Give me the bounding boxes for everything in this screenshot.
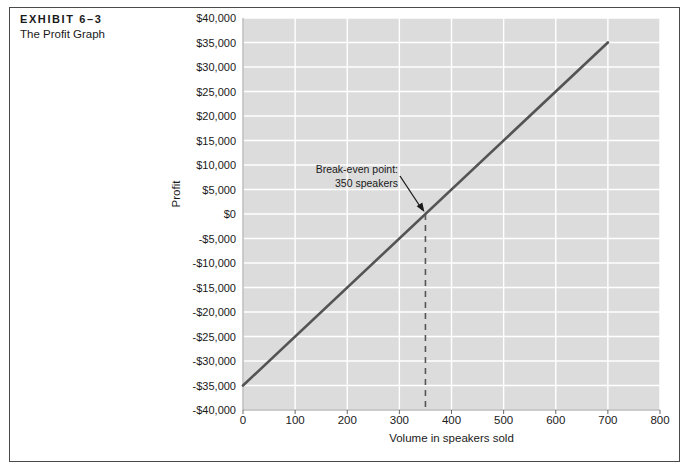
- x-tick-label: 0: [240, 414, 246, 426]
- x-tick-label: 100: [286, 414, 305, 426]
- y-tick-label: -$35,000: [150, 380, 236, 392]
- y-tick-label: $30,000: [150, 61, 236, 73]
- break-even-annotation: Break-even point: 350 speakers: [288, 163, 398, 191]
- profit-graph-chart: $40,000$35,000$30,000$25,000$20,000$15,0…: [0, 0, 691, 473]
- x-tick-label: 400: [442, 414, 461, 426]
- y-tick-label: -$5,000: [150, 233, 236, 245]
- y-tick-label: $0: [150, 208, 236, 220]
- y-tick-label: $40,000: [150, 12, 236, 24]
- annotation-line-1: Break-even point:: [288, 163, 398, 177]
- y-tick-label: $5,000: [150, 184, 236, 196]
- y-tick-label: $35,000: [150, 37, 236, 49]
- y-tick-label: -$10,000: [150, 257, 236, 269]
- annotation-arrow: [400, 176, 424, 212]
- y-axis-title: Profit: [170, 174, 182, 214]
- annotation-line-2: 350 speakers: [288, 177, 398, 191]
- y-tick-label: -$25,000: [150, 331, 236, 343]
- x-tick-label: 800: [650, 414, 669, 426]
- y-tick-label: $25,000: [150, 86, 236, 98]
- exhibit-figure: EXHIBIT 6–3 The Profit Graph $40,000$35,…: [0, 0, 691, 473]
- x-tick-label: 700: [598, 414, 617, 426]
- y-tick-label: -$20,000: [150, 306, 236, 318]
- x-axis-title: Volume in speakers sold: [243, 432, 660, 444]
- y-tick-label: $10,000: [150, 159, 236, 171]
- y-tick-label: $15,000: [150, 135, 236, 147]
- y-tick-label: $20,000: [150, 110, 236, 122]
- gridlines: [243, 18, 660, 410]
- x-tick-label: 200: [338, 414, 357, 426]
- y-tick-label: -$40,000: [150, 404, 236, 416]
- x-tick-label: 500: [494, 414, 513, 426]
- x-tick-label: 600: [546, 414, 565, 426]
- plot-vector-layer: [0, 0, 691, 473]
- y-tick-label: -$30,000: [150, 355, 236, 367]
- x-tick-label: 300: [390, 414, 409, 426]
- y-tick-label: -$15,000: [150, 282, 236, 294]
